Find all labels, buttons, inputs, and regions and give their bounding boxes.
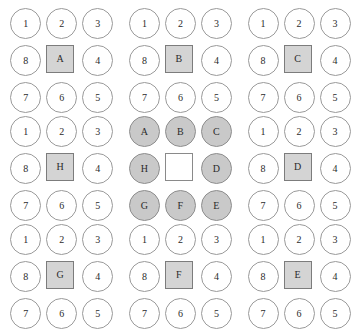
cell-label: 8 bbox=[23, 164, 28, 174]
cell-label: 8 bbox=[261, 272, 266, 282]
panel-panel-r3c1: 1238G4765 bbox=[4, 224, 123, 332]
neighbor-circle-cell: 2 bbox=[46, 224, 77, 255]
panel-panel-r2c1: 1238H4765 bbox=[4, 116, 123, 224]
neighbor-circle-cell: 8 bbox=[248, 153, 279, 184]
neighbor-circle-cell: G bbox=[129, 190, 160, 221]
neighbor-circle-cell: 2 bbox=[284, 224, 315, 255]
neighbor-circle-cell: C bbox=[201, 116, 232, 147]
panel-panel-r3c3: 1238E4765 bbox=[241, 224, 360, 332]
neighbor-circle-cell: H bbox=[129, 153, 160, 184]
cell-label: 3 bbox=[95, 127, 100, 137]
center-square-cell: A bbox=[46, 45, 74, 73]
center-square-cell: G bbox=[46, 261, 74, 289]
cell-label: F bbox=[176, 270, 182, 280]
cell-label: 4 bbox=[214, 272, 219, 282]
neighbor-circle-cell: 3 bbox=[320, 8, 351, 39]
cell-label: 7 bbox=[142, 309, 147, 319]
cell-label: 2 bbox=[178, 19, 183, 29]
cell-label: 2 bbox=[297, 235, 302, 245]
cell-label: 2 bbox=[59, 127, 64, 137]
cell-label: 1 bbox=[23, 127, 28, 137]
cell-label: 3 bbox=[333, 235, 338, 245]
neighbor-circle-cell: 4 bbox=[82, 45, 113, 76]
neighbor-circle-cell: 4 bbox=[320, 153, 351, 184]
cell-label: 4 bbox=[95, 164, 100, 174]
neighbor-circle-cell: 4 bbox=[201, 261, 232, 292]
neighbor-circle-cell: 7 bbox=[248, 298, 279, 329]
cell-label: 7 bbox=[261, 309, 266, 319]
neighbor-circle-cell: 7 bbox=[129, 298, 160, 329]
cell-label: 4 bbox=[333, 56, 338, 66]
neighbor-circle-cell: B bbox=[165, 116, 196, 147]
cell-label: 1 bbox=[261, 127, 266, 137]
neighbor-circle-cell: 5 bbox=[320, 298, 351, 329]
cell-label: 1 bbox=[142, 235, 147, 245]
neighbor-circle-cell: 7 bbox=[129, 82, 160, 113]
cell-label: 5 bbox=[95, 201, 100, 211]
cell-label: C bbox=[213, 127, 220, 137]
cell-label: 7 bbox=[261, 201, 266, 211]
center-square-cell: C bbox=[284, 45, 312, 73]
cell-label: 6 bbox=[59, 201, 64, 211]
cell-label: 8 bbox=[142, 272, 147, 282]
cell-label: 1 bbox=[261, 235, 266, 245]
neighbor-circle-cell: 5 bbox=[320, 190, 351, 221]
cell-label: 6 bbox=[297, 309, 302, 319]
cell-label: 7 bbox=[23, 201, 28, 211]
neighbor-circle-cell: 3 bbox=[82, 116, 113, 147]
center-square-cell: B bbox=[165, 45, 193, 73]
cell-label: G bbox=[57, 270, 64, 280]
neighbor-circle-cell: 2 bbox=[284, 116, 315, 147]
cell-label: 5 bbox=[214, 93, 219, 103]
neighbor-circle-cell: 2 bbox=[165, 8, 196, 39]
neighbor-circle-cell: 3 bbox=[201, 8, 232, 39]
cell-label: 5 bbox=[214, 309, 219, 319]
cell-label: 2 bbox=[297, 19, 302, 29]
cell-label: 8 bbox=[142, 56, 147, 66]
cell-label: D bbox=[213, 164, 220, 174]
neighbor-circle-cell: 5 bbox=[320, 82, 351, 113]
cell-label: 7 bbox=[23, 93, 28, 103]
figure-panel-grid: 1238A47651238B47651238C47651238H4765ABCH… bbox=[0, 0, 364, 335]
cell-label: 6 bbox=[178, 93, 183, 103]
cell-label: 8 bbox=[261, 56, 266, 66]
neighbor-circle-cell: A bbox=[129, 116, 160, 147]
cell-label: 4 bbox=[95, 56, 100, 66]
panel-panel-r1c1: 1238A4765 bbox=[4, 8, 123, 116]
cell-label: 3 bbox=[95, 19, 100, 29]
neighbor-circle-cell: 8 bbox=[10, 45, 41, 76]
cell-label: 6 bbox=[297, 93, 302, 103]
cell-label: 4 bbox=[95, 272, 100, 282]
neighbor-circle-cell: 1 bbox=[10, 224, 41, 255]
cell-label: G bbox=[141, 201, 148, 211]
cell-label: 6 bbox=[59, 309, 64, 319]
cell-label: 1 bbox=[23, 235, 28, 245]
cell-label: 6 bbox=[178, 309, 183, 319]
cell-label: 1 bbox=[261, 19, 266, 29]
cell-label: B bbox=[176, 54, 183, 64]
cell-label: 5 bbox=[95, 309, 100, 319]
neighbor-circle-cell: 1 bbox=[129, 224, 160, 255]
cell-grid: 1238G4765 bbox=[10, 224, 116, 332]
neighbor-circle-cell: 5 bbox=[82, 190, 113, 221]
cell-label: 7 bbox=[23, 309, 28, 319]
neighbor-circle-cell: 6 bbox=[46, 190, 77, 221]
cell-label: B bbox=[177, 127, 184, 137]
neighbor-circle-cell: 8 bbox=[129, 261, 160, 292]
neighbor-circle-cell: 6 bbox=[284, 190, 315, 221]
center-square-cell bbox=[165, 153, 193, 181]
neighbor-circle-cell: 1 bbox=[129, 8, 160, 39]
neighbor-circle-cell: 5 bbox=[201, 82, 232, 113]
neighbor-circle-cell: 5 bbox=[201, 298, 232, 329]
cell-label: 3 bbox=[333, 127, 338, 137]
cell-label: 4 bbox=[333, 272, 338, 282]
cell-label: 3 bbox=[95, 235, 100, 245]
cell-label: F bbox=[178, 201, 184, 211]
cell-label: 6 bbox=[297, 201, 302, 211]
neighbor-circle-cell: 6 bbox=[165, 298, 196, 329]
neighbor-circle-cell: 1 bbox=[10, 8, 41, 39]
neighbor-circle-cell: 5 bbox=[82, 82, 113, 113]
cell-label: 8 bbox=[23, 272, 28, 282]
neighbor-circle-cell: 7 bbox=[10, 190, 41, 221]
cell-grid: 1238H4765 bbox=[10, 116, 116, 224]
